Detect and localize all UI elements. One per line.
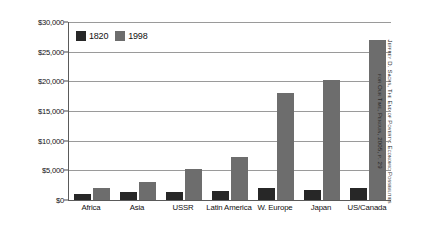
bar-1820-japan — [304, 190, 321, 200]
source-caption-line-1: Jeffrey D. Sachs, The End of Poverty: Ec… — [386, 0, 396, 243]
bars-layer — [69, 22, 391, 200]
bar-group — [299, 22, 345, 200]
legend-label: 1820 — [89, 31, 108, 41]
bar-1998-latin-america — [231, 157, 248, 200]
x-axis-tick-label: USSR — [172, 203, 193, 212]
x-axis-tick-label: Japan — [311, 203, 332, 212]
y-axis-tick-label: $5,000 — [12, 166, 64, 175]
x-axis-tick-labels: AfricaAsiaUSSRLatin AmericaW. EuropeJapa… — [68, 203, 390, 219]
x-axis-tick-label: W. Europe — [257, 203, 292, 212]
bar-1820-africa — [74, 194, 91, 200]
legend-entry: 1998 — [115, 31, 147, 41]
bar-1998-asia — [139, 182, 156, 200]
bar-group — [207, 22, 253, 200]
source-caption: Jeffrey D. Sachs, The End of Poverty: Ec… — [361, 0, 401, 243]
y-axis-tick-label: $30,000 — [12, 18, 64, 27]
source-caption-line-2: for Our Time, Penguin, 2005, p. 29 — [376, 0, 386, 243]
bar-1820-latin-america — [212, 191, 229, 200]
bar-1820-ussr — [166, 192, 183, 200]
plot-area — [68, 22, 391, 201]
legend-entry: 1820 — [76, 31, 108, 41]
y-axis-tick-labels: $0$5,000$10,000$15,000$20,000$25,000$30,… — [12, 0, 64, 243]
y-axis-tick-label: $10,000 — [12, 136, 64, 145]
bar-1998-africa — [93, 188, 110, 200]
legend-swatch-icon — [76, 31, 86, 41]
bar-group — [115, 22, 161, 200]
bar-group — [69, 22, 115, 200]
legend-label: 1998 — [128, 31, 147, 41]
y-axis-tick-label: $25,000 — [12, 47, 64, 56]
y-axis-tick-label: $15,000 — [12, 107, 64, 116]
bar-1998-japan — [323, 80, 340, 200]
bar-group — [253, 22, 299, 200]
bar-1998-ussr — [185, 169, 202, 200]
bar-group — [161, 22, 207, 200]
y-axis-tick-label: $0 — [12, 196, 64, 205]
bar-1998-w-europe — [277, 93, 294, 200]
x-axis-tick-label: Africa — [81, 203, 100, 212]
legend-swatch-icon — [115, 31, 125, 41]
y-axis-tick-label: $20,000 — [12, 77, 64, 86]
chart-legend: 18201998 — [76, 28, 147, 44]
bar-1820-w-europe — [258, 188, 275, 200]
x-axis-tick-label: Latin America — [206, 203, 251, 212]
bar-1820-asia — [120, 192, 137, 200]
bar-chart-figure: Per Capita in 1990 US Dollars $0$5,000$1… — [0, 0, 443, 243]
x-axis-tick-label: Asia — [130, 203, 145, 212]
